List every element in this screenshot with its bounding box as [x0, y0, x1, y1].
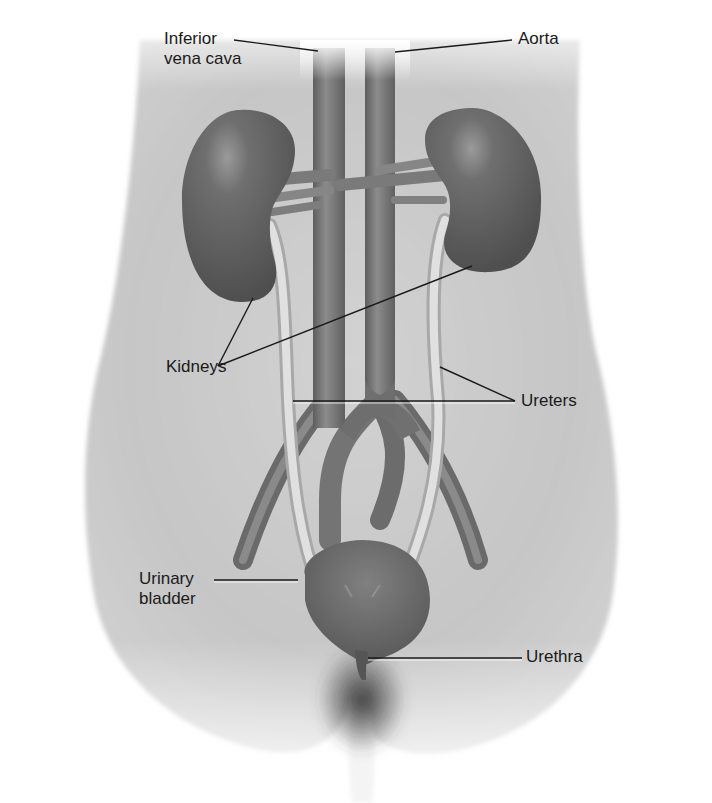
label-ureters: Ureters [521, 391, 577, 411]
aorta-vessel [365, 48, 395, 398]
label-aorta: Aorta [518, 29, 559, 49]
label-inferior-vena-cava: Inferior vena cava [164, 29, 242, 69]
label-kidneys: Kidneys [166, 357, 226, 377]
label-urethra: Urethra [526, 647, 583, 667]
label-urinary-bladder: Urinary bladder [139, 569, 196, 609]
urinary-system-illustration [0, 0, 712, 803]
inferior-vena-cava-vessel [313, 48, 345, 428]
